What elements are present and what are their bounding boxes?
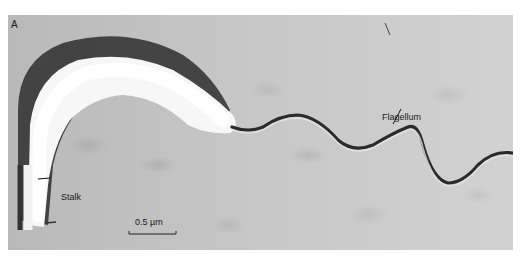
flagellum-label: Flagellum bbox=[382, 112, 421, 122]
stalk-label: Stalk bbox=[61, 192, 81, 202]
scale-bar-label: 0.5 µm bbox=[135, 217, 163, 227]
panel-letter: A bbox=[11, 19, 18, 30]
micrograph: A Stalk Flagellum 0.5 µm bbox=[8, 15, 513, 250]
micrograph-drawing bbox=[8, 15, 513, 250]
flagellum bbox=[232, 115, 513, 183]
scale-bar bbox=[129, 231, 176, 234]
